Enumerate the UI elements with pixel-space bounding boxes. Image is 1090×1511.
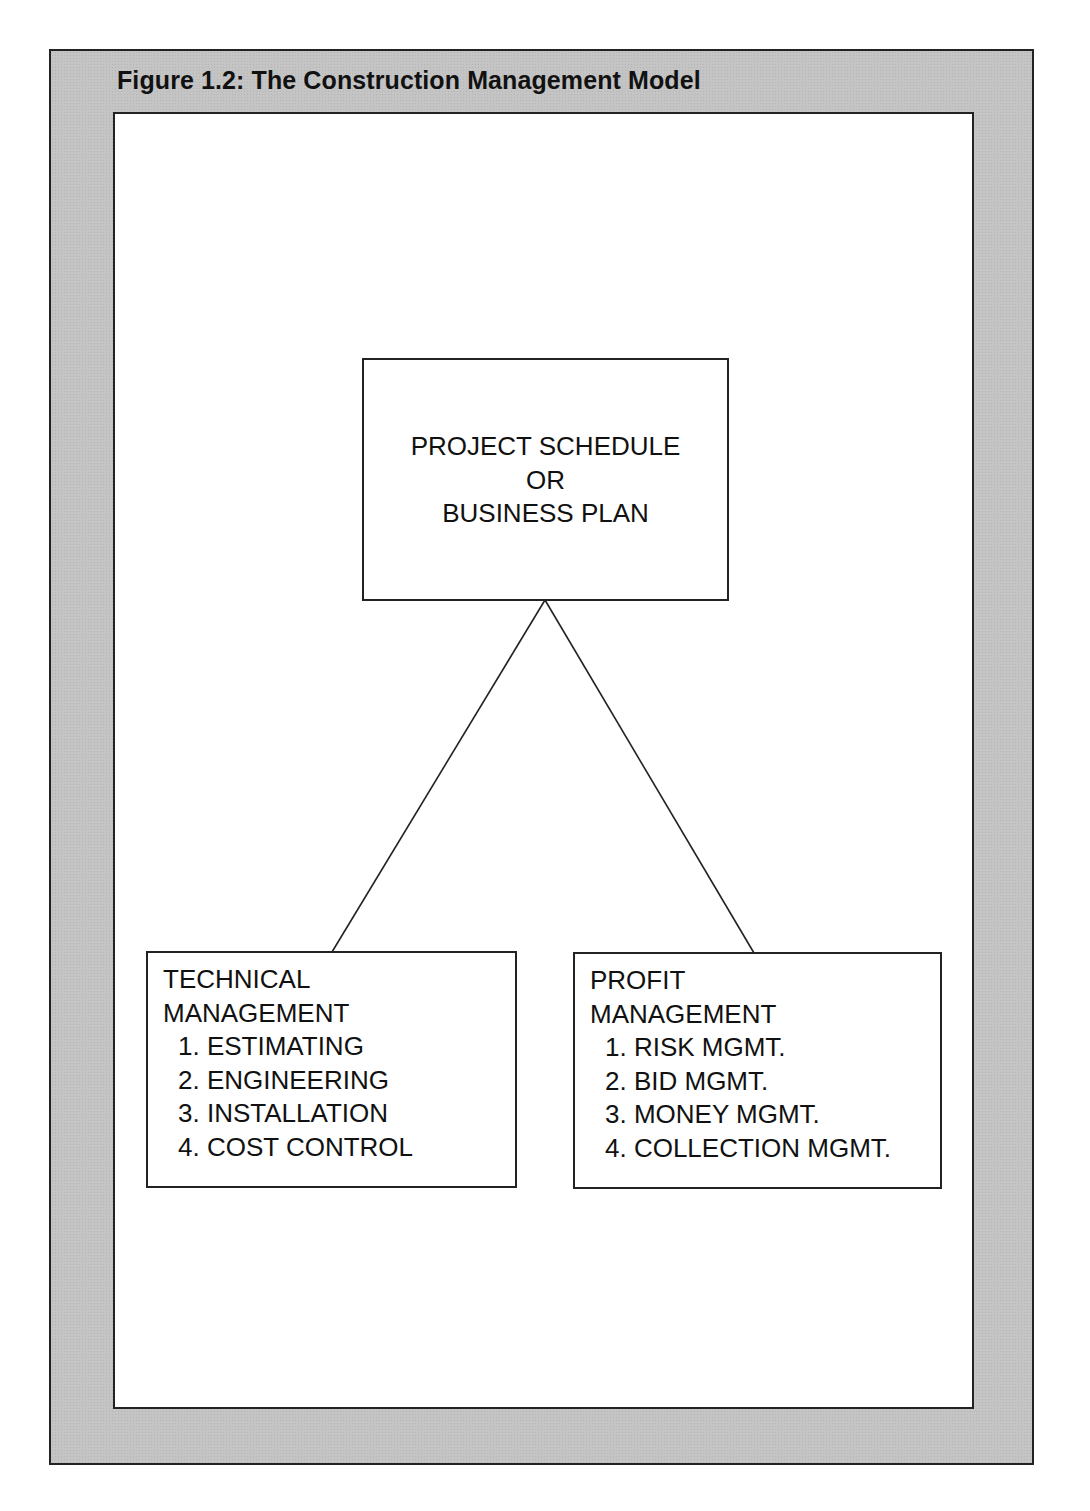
list-item: 4. COST CONTROL	[163, 1131, 515, 1165]
list-item: 2. ENGINEERING	[163, 1064, 515, 1098]
top-box-line: OR	[364, 464, 727, 498]
top-box-line: PROJECT SCHEDULE	[364, 430, 727, 464]
profit-management-box: PROFIT MANAGEMENT 1. RISK MGMT. 2. BID M…	[573, 952, 942, 1189]
technical-management-box: TECHNICAL MANAGEMENT 1. ESTIMATING 2. EN…	[146, 951, 517, 1188]
list-item: 2. BID MGMT.	[590, 1065, 940, 1099]
list-item: 1. RISK MGMT.	[590, 1031, 940, 1065]
list-item: 4. COLLECTION MGMT.	[590, 1132, 940, 1166]
box-heading: MANAGEMENT	[163, 997, 515, 1031]
diagram-panel	[113, 112, 974, 1409]
list-item: 3. INSTALLATION	[163, 1097, 515, 1131]
list-item: 1. ESTIMATING	[163, 1030, 515, 1064]
project-schedule-box: PROJECT SCHEDULE OR BUSINESS PLAN	[362, 358, 729, 601]
box-heading: MANAGEMENT	[590, 998, 940, 1032]
box-heading: PROFIT	[590, 964, 940, 998]
box-heading: TECHNICAL	[163, 963, 515, 997]
top-box-line: BUSINESS PLAN	[364, 497, 727, 531]
figure-title: Figure 1.2: The Construction Management …	[117, 66, 701, 95]
list-item: 3. MONEY MGMT.	[590, 1098, 940, 1132]
